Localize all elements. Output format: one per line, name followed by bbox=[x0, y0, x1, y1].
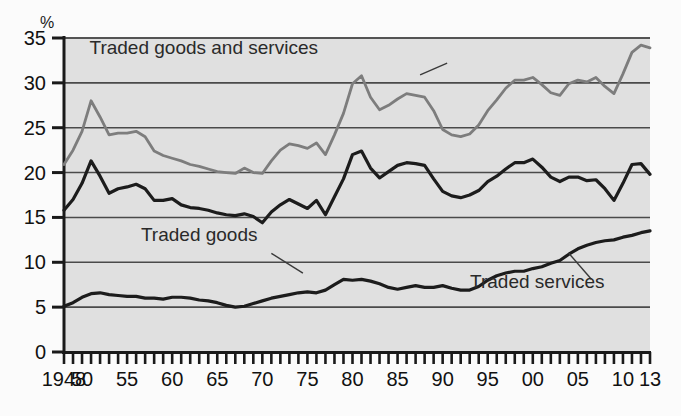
x-axis-tick-label: 13 bbox=[639, 368, 661, 390]
y-axis-unit-label: % bbox=[40, 14, 54, 31]
line-chart: 05101520253035 1948505560657075808590950… bbox=[0, 0, 681, 416]
x-axis-tick-label: 85 bbox=[386, 368, 408, 390]
y-axis-tick-label: 25 bbox=[24, 117, 46, 139]
x-axis-tick-label: 00 bbox=[522, 368, 544, 390]
y-axis-tick-label: 30 bbox=[24, 72, 46, 94]
x-axis-tick-label: 75 bbox=[296, 368, 318, 390]
series-annotation-label: Traded goods bbox=[141, 224, 258, 245]
x-axis-tick-label: 50 bbox=[71, 368, 93, 390]
x-axis-tick-label: 65 bbox=[206, 368, 228, 390]
y-axis-tick-label: 15 bbox=[24, 206, 46, 228]
x-axis-tick-label: 95 bbox=[477, 368, 499, 390]
chart-figure: 05101520253035 1948505560657075808590950… bbox=[0, 0, 681, 416]
y-axis-tick-label: 0 bbox=[35, 341, 46, 363]
x-axis-tick-label: 10 bbox=[612, 368, 634, 390]
y-axis-tick-label: 20 bbox=[24, 162, 46, 184]
x-axis-tick-label: 80 bbox=[341, 368, 363, 390]
y-axis-tick-label: 5 bbox=[35, 296, 46, 318]
x-axis-tick-label: 05 bbox=[567, 368, 589, 390]
x-axis-tick-label: 70 bbox=[251, 368, 273, 390]
x-axis-tick-label: 55 bbox=[116, 368, 138, 390]
series-annotation-label: Traded goods and services bbox=[89, 37, 317, 58]
y-axis-tick-label: 10 bbox=[24, 251, 46, 273]
x-axis-tick-label: 90 bbox=[432, 368, 454, 390]
x-axis-tick-labels: 19485055606570758085909500051013 bbox=[42, 368, 661, 390]
y-axis-ticks bbox=[52, 38, 64, 352]
series-annotation-label: Traded services bbox=[470, 271, 604, 292]
x-axis-tick-label: 60 bbox=[161, 368, 183, 390]
y-axis-tick-labels: 05101520253035 bbox=[24, 27, 46, 363]
